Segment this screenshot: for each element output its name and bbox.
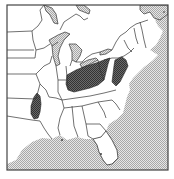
new-orleans-marker <box>61 139 63 141</box>
map-container <box>0 0 174 179</box>
lake-okeechobee-marker <box>100 153 102 155</box>
eastern-us-map <box>0 0 174 179</box>
island-marker <box>163 11 165 13</box>
